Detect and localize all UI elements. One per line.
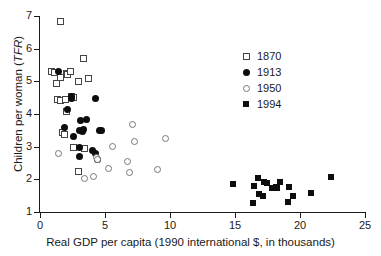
legend-item-1913[interactable]: 1913 xyxy=(243,64,313,80)
data-point-1950 xyxy=(131,138,138,145)
x-tick-15 xyxy=(235,213,236,218)
data-point-1950 xyxy=(94,156,101,163)
x-tick-5 xyxy=(105,213,106,218)
y-tick-4 xyxy=(34,114,39,115)
y-tick-1 xyxy=(34,212,39,213)
data-point-1870 xyxy=(75,78,82,85)
data-point-1950 xyxy=(109,143,116,150)
x-axis-title: Real GDP per capita (1990 international … xyxy=(0,236,381,248)
y-tick-label-6: 6 xyxy=(18,43,32,54)
data-point-1994 xyxy=(230,181,236,187)
data-point-1913 xyxy=(80,126,87,133)
legend-label-1994: 1994 xyxy=(257,96,281,112)
data-point-1994 xyxy=(277,179,283,185)
data-point-1950 xyxy=(105,165,112,172)
y-axis-title-tail: ) xyxy=(12,36,24,40)
data-point-1913 xyxy=(83,116,90,123)
data-point-1950 xyxy=(124,158,131,165)
y-tick-6 xyxy=(34,49,39,50)
data-point-1950 xyxy=(126,169,133,176)
data-point-1950 xyxy=(162,135,169,142)
y-tick-label-3: 3 xyxy=(18,141,32,152)
y-tick-2 xyxy=(34,179,39,180)
data-point-1870 xyxy=(75,168,82,175)
data-point-1994 xyxy=(251,183,257,189)
data-point-1994 xyxy=(274,185,280,191)
data-point-1950 xyxy=(55,150,62,157)
data-point-1994 xyxy=(286,184,292,190)
data-point-1994 xyxy=(290,193,296,199)
data-point-1994 xyxy=(328,174,334,180)
legend-item-1870[interactable]: 1870 xyxy=(243,48,313,64)
x-tick-10 xyxy=(170,213,171,218)
data-point-1913 xyxy=(76,153,83,160)
data-point-1870 xyxy=(57,18,64,25)
y-tick-7 xyxy=(34,16,39,17)
data-point-1950 xyxy=(129,121,136,128)
data-point-1913 xyxy=(61,124,68,131)
data-point-1994 xyxy=(285,199,291,205)
legend-marker-open-circle-icon xyxy=(243,85,250,92)
x-tick-20 xyxy=(300,213,301,218)
data-point-1950 xyxy=(154,166,161,173)
legend-marker-filled-circle-icon xyxy=(243,69,250,76)
legend-label-1870: 1870 xyxy=(257,48,281,64)
data-point-1994 xyxy=(308,190,314,196)
x-tick-0 xyxy=(40,213,41,218)
x-tick-25 xyxy=(365,213,366,218)
legend-label-1913: 1913 xyxy=(257,64,281,80)
data-point-1913 xyxy=(64,106,71,113)
y-tick-5 xyxy=(34,81,39,82)
data-point-1994 xyxy=(260,193,266,199)
x-tick-label-10: 10 xyxy=(160,220,180,231)
data-point-1870 xyxy=(80,55,87,62)
y-tick-label-7: 7 xyxy=(18,10,32,21)
data-point-1994 xyxy=(255,175,261,181)
y-tick-label-4: 4 xyxy=(18,108,32,119)
legend-marker-open-square-icon xyxy=(243,53,250,60)
chart-legend: 1870191319501994 xyxy=(243,48,313,112)
data-point-1870 xyxy=(53,80,60,87)
legend-item-1994[interactable]: 1994 xyxy=(243,96,313,112)
legend-item-1950[interactable]: 1950 xyxy=(243,80,313,96)
x-tick-label-5: 5 xyxy=(95,220,115,231)
legend-marker-filled-square-icon xyxy=(243,101,249,107)
data-point-1870 xyxy=(67,68,74,75)
data-point-1870 xyxy=(85,75,92,82)
x-tick-label-0: 0 xyxy=(30,220,50,231)
x-axis-line xyxy=(39,212,366,213)
scatter-plot-figure: Children per woman (TFR) Real GDP per ca… xyxy=(0,0,381,256)
data-point-1994 xyxy=(250,200,256,206)
data-point-1950 xyxy=(81,175,88,182)
data-point-1913 xyxy=(98,127,105,134)
data-point-1870 xyxy=(61,131,68,138)
data-point-1950 xyxy=(90,173,97,180)
y-tick-label-1: 1 xyxy=(18,206,32,217)
y-tick-label-5: 5 xyxy=(18,75,32,86)
data-point-1913 xyxy=(70,133,77,140)
x-tick-label-20: 20 xyxy=(290,220,310,231)
y-tick-label-2: 2 xyxy=(18,173,32,184)
plot-area xyxy=(40,16,365,212)
x-tick-label-15: 15 xyxy=(225,220,245,231)
y-tick-3 xyxy=(34,147,39,148)
data-point-1913 xyxy=(92,95,99,102)
legend-label-1950: 1950 xyxy=(257,80,281,96)
x-tick-label-25: 25 xyxy=(355,220,375,231)
data-point-1913 xyxy=(76,144,83,151)
